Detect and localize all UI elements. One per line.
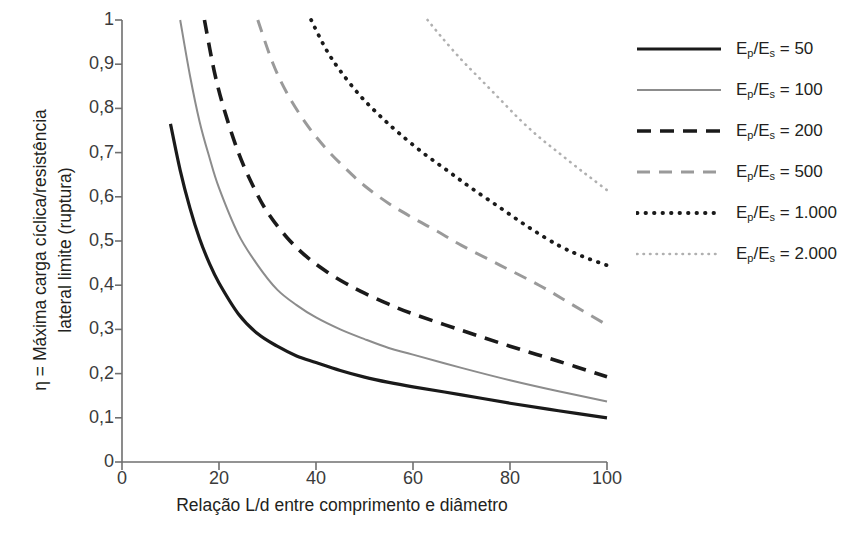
legend-item-4[interactable]: Ep/Es = 1.000 [636, 192, 866, 233]
legend-item-3[interactable]: Ep/Es = 500 [636, 151, 866, 192]
legend-item-label: Ep/Es = 2.000 [736, 244, 837, 264]
series-line-2 [204, 20, 607, 377]
legend-item-label: Ep/Es = 500 [736, 162, 823, 182]
legend-line-icon [636, 206, 722, 220]
legend-line-icon [636, 247, 722, 261]
x-tick-label: 20 [189, 468, 249, 489]
x-tick-label: 40 [286, 468, 346, 489]
legend-item-label: Ep/Es = 1.000 [736, 203, 837, 223]
legend-line-icon [636, 165, 722, 179]
legend-item-0[interactable]: Ep/Es = 50 [636, 28, 866, 69]
x-tick-label: 80 [480, 468, 540, 489]
legend-line-icon [636, 83, 722, 97]
x-tick-label: 60 [383, 468, 443, 489]
legend-item-1[interactable]: Ep/Es = 100 [636, 69, 866, 110]
legend-item-5[interactable]: Ep/Es = 2.000 [636, 233, 866, 274]
legend-item-label: Ep/Es = 100 [736, 80, 823, 100]
legend-item-label: Ep/Es = 50 [736, 39, 813, 59]
chart-figure: η = Máxima carga cíclica/resistência lat… [0, 0, 866, 535]
legend-line-icon [636, 124, 722, 138]
legend-item-label: Ep/Es = 200 [736, 121, 823, 141]
series-line-4 [311, 20, 607, 265]
x-tick-label: 0 [92, 468, 152, 489]
series-line-3 [258, 20, 607, 325]
legend-line-icon [636, 42, 722, 56]
x-tick-label: 100 [577, 468, 637, 489]
series-line-0 [171, 124, 608, 418]
series-line-5 [428, 20, 607, 190]
x-axis-title: Relação L/d entre comprimento e diâmetro [62, 495, 622, 516]
legend: Ep/Es = 50Ep/Es = 100Ep/Es = 200Ep/Es = … [636, 28, 866, 274]
series-line-1 [180, 20, 607, 401]
legend-item-2[interactable]: Ep/Es = 200 [636, 110, 866, 151]
